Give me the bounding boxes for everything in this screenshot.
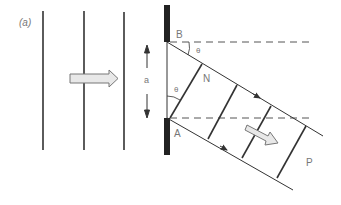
point-P-label: P (306, 157, 313, 168)
screen-upper (164, 5, 170, 42)
point-A-label: A (174, 128, 181, 139)
diffracted-wavefronts (170, 64, 306, 178)
ray-from-A (167, 118, 293, 190)
theta-mid-label: θ (174, 85, 179, 94)
diffraction-diagram: (a) a B A N P θ θ (0, 0, 341, 205)
ray-direction-arrow-icon (253, 94, 260, 98)
screen-lower (164, 118, 170, 155)
diffracted-direction-arrow-icon (245, 125, 278, 145)
slit-width-label: a (144, 75, 149, 85)
point-N-label: N (203, 73, 210, 84)
ray-from-B (167, 42, 323, 136)
point-B-label: B (176, 29, 183, 40)
panel-label: (a) (19, 17, 31, 28)
theta-top-label: θ (196, 46, 201, 55)
angle-arc-top (188, 42, 190, 55)
incident-direction-arrow-icon (70, 70, 118, 87)
angle-arc-mid (167, 96, 180, 100)
